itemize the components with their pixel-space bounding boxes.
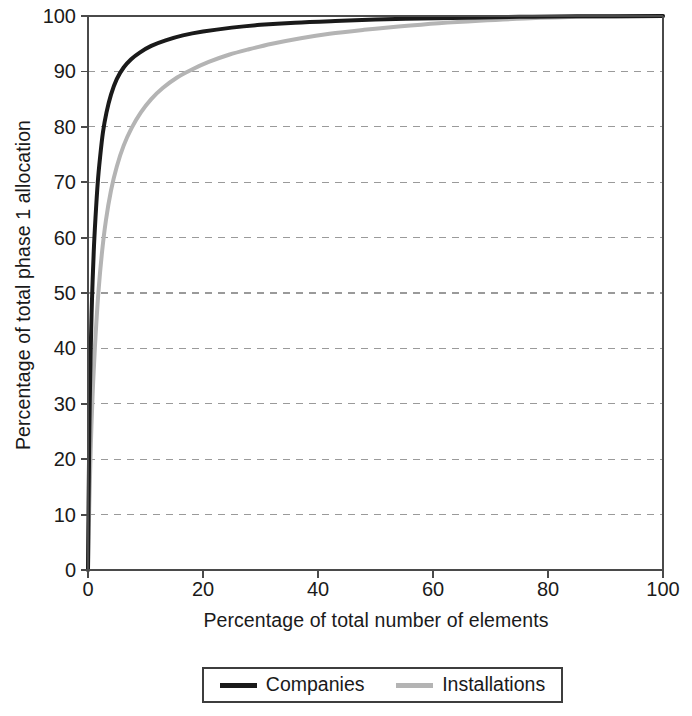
legend-item-companies: Companies: [220, 675, 365, 695]
x-tick-label: 80: [537, 578, 559, 601]
y-axis-title: Percentage of total phase 1 allocation: [4, 0, 42, 570]
legend-swatch-companies: [220, 683, 257, 688]
legend-label-installations: Installations: [442, 675, 545, 695]
x-tick-label: 20: [192, 578, 214, 601]
chart-figure: 0102030405060708090100 020406080100 Perc…: [0, 0, 692, 716]
x-tick-label: 0: [82, 578, 93, 601]
x-tick-label: 40: [307, 578, 329, 601]
legend-item-installations: Installations: [396, 675, 545, 695]
x-tick-label: 60: [422, 578, 444, 601]
x-tick-label: 100: [646, 578, 679, 601]
legend-swatch-installations: [396, 683, 433, 688]
x-axis-title: Percentage of total number of elements: [88, 609, 664, 632]
legend-label-companies: Companies: [266, 675, 365, 695]
chart-legend: Companies Installations: [202, 667, 563, 703]
